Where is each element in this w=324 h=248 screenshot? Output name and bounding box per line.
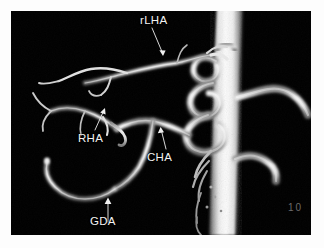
label-cha: CHA	[147, 152, 172, 164]
scan-image-panel: rLHA RHA CHA GDA 10	[11, 11, 311, 235]
label-gda: GDA	[90, 216, 116, 228]
angiography-figure: rLHA RHA CHA GDA 10	[0, 0, 324, 248]
scale-marker: 10	[288, 203, 303, 213]
label-rlha: rLHA	[140, 15, 167, 27]
vessel-rendering	[11, 11, 311, 235]
label-rha: RHA	[78, 133, 103, 145]
image-noise-overlay	[11, 11, 311, 235]
